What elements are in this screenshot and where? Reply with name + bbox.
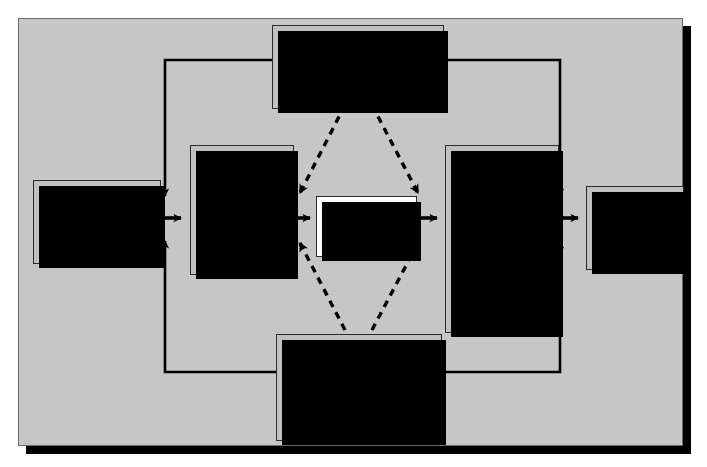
- node-perception-of-events: Perception of events Thoughts about even…: [316, 196, 417, 257]
- node-title: Life stressors: [198, 151, 286, 163]
- list-item: Home relationships: [50, 245, 153, 257]
- node-item-list-behavioral: Inability to work Inefficiency Arguments: [453, 291, 551, 326]
- list-item: Job dissatisfaction: [462, 257, 551, 269]
- list-item: Social support: [298, 376, 434, 388]
- list-item: Role ambiguity: [207, 222, 286, 234]
- group-label-psychological: Psychological: [453, 222, 551, 234]
- list-item: Social interaction: [596, 251, 676, 263]
- node-item-list: Stress markers Family background Neighbo…: [41, 199, 153, 257]
- list-item: Anxiety: [462, 245, 551, 257]
- node-item-list: Personality type Self-esteem Locus of co…: [280, 56, 436, 102]
- list-item: Family support: [298, 365, 434, 377]
- list-item: Vibration: [207, 199, 286, 211]
- list-item: Demographic characteristics: [289, 90, 436, 102]
- list-item: Personality type: [289, 56, 436, 68]
- list-item: Anger: [462, 268, 551, 280]
- node-responses-to-stress: Responses to stress Physiological Cardio…: [445, 145, 559, 333]
- node-consequences-of-stress: Consequences of stress Health/illness Pe…: [586, 186, 684, 270]
- list-item: Biochemical: [462, 187, 551, 199]
- node-title: Perception of events: [324, 202, 409, 226]
- list-item: Personal conflict: [207, 257, 286, 269]
- node-item-list-physiological: Cardiovascular Biochemical Gastrointesti…: [453, 175, 551, 221]
- list-item: Cardiovascular: [462, 175, 551, 187]
- list-item: Personal time: [298, 411, 434, 423]
- list-item: Health/illness: [596, 217, 676, 229]
- list-item: Light: [207, 187, 286, 199]
- node-stress-mediators: Factors that act as stress mediators Fam…: [276, 334, 442, 441]
- node-title: Consequences of stress: [594, 192, 676, 216]
- node-title: Personal qualities that influence stress: [280, 31, 436, 55]
- list-item: Cultural expectations: [50, 234, 153, 246]
- node-title: Factors that act as stress mediators: [284, 340, 434, 364]
- list-item: Inefficiency: [462, 303, 551, 315]
- list-item: Faith/religion: [298, 399, 434, 411]
- diagram-canvas: Antecedents to stress Stress markers Fam…: [0, 0, 707, 467]
- node-item-list-psychological: Depression Anxiety Job dissatisfaction A…: [453, 233, 551, 279]
- node-life-stressors: Life stressors Physical Noise Light Vibr…: [190, 145, 294, 275]
- list-item: Thoughts about events: [324, 227, 409, 250]
- list-item: Inability to work: [462, 291, 551, 303]
- list-item: Family background: [50, 210, 153, 222]
- list-item: Self-esteem: [289, 67, 436, 79]
- list-item: Gastrointestinal: [462, 199, 551, 211]
- group-label-psychosocial: Psychosocial: [198, 210, 286, 222]
- group-label-physical: Physical: [198, 164, 286, 176]
- list-item: Personal/work effectiveness: [596, 228, 676, 251]
- node-item-list-psychosocial: Role ambiguity Role conflict Role overlo…: [198, 222, 286, 268]
- node-personal-qualities: Personal qualities that influence stress…: [272, 25, 444, 109]
- list-item: Locus of control: [289, 79, 436, 91]
- node-title: Responses to stress: [453, 151, 551, 163]
- list-item: Role conflict: [207, 233, 286, 245]
- list-item: Neighborhood: [50, 222, 153, 234]
- list-item: Depression: [462, 233, 551, 245]
- node-item-list-physical: Noise Light Vibration: [198, 175, 286, 210]
- list-item: Role overload: [207, 245, 286, 257]
- list-item: Arguments: [462, 315, 551, 327]
- node-item-list: Health/illness Personal/work effectivene…: [594, 217, 676, 263]
- node-item-list: Thoughts about events: [324, 227, 409, 250]
- list-item: Exercise/health habits: [298, 423, 434, 435]
- list-item: Musculoskeletal: [462, 210, 551, 222]
- node-antecedents-to-stress: Antecedents to stress Stress markers Fam…: [33, 180, 161, 264]
- group-label-physiological: Physiological: [453, 164, 551, 176]
- list-item: Noise: [207, 175, 286, 187]
- node-item-list: Family support Social support Work suppo…: [284, 365, 434, 435]
- list-item: Work support: [298, 388, 434, 400]
- list-item: Stress markers: [50, 199, 153, 211]
- node-title: Antecedents to stress: [41, 186, 153, 198]
- group-label-behavioral: Behavioral: [453, 280, 551, 292]
